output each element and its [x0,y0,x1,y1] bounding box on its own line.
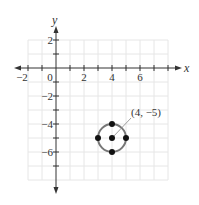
point-top [109,121,115,127]
point-left [95,135,101,141]
x-tick-label: 6 [137,71,143,83]
y-axis-arrow-up-icon [54,26,59,33]
point-bottom [109,149,115,155]
x-tick-label: 0 [47,71,53,83]
annotation-label: (4, −5) [131,106,161,119]
point-right [123,135,129,141]
x-tick-label: 2 [81,71,87,83]
x-axis-arrow-left-icon [14,66,21,71]
x-tick-label: 4 [109,71,115,83]
annotation-leader-line [113,118,131,137]
data-points [95,121,129,155]
x-axis [18,65,178,71]
y-axis-arrow-down-icon [54,187,59,194]
center-point [109,135,115,141]
y-axis-label: y [51,13,58,27]
y-tick-label: 2 [48,34,54,46]
y-tick-label: −6 [41,146,53,158]
x-axis-arrow-right-icon [175,66,182,71]
coordinate-plane: x y −2 0 2 4 6 2 −2 −4 −6 (4, −5) [0,0,199,205]
y-axis [53,30,59,190]
y-tick-label: −4 [41,118,53,130]
x-axis-label: x [183,61,190,75]
y-tick-label: −2 [41,90,53,102]
x-tick-label: −2 [16,71,28,83]
